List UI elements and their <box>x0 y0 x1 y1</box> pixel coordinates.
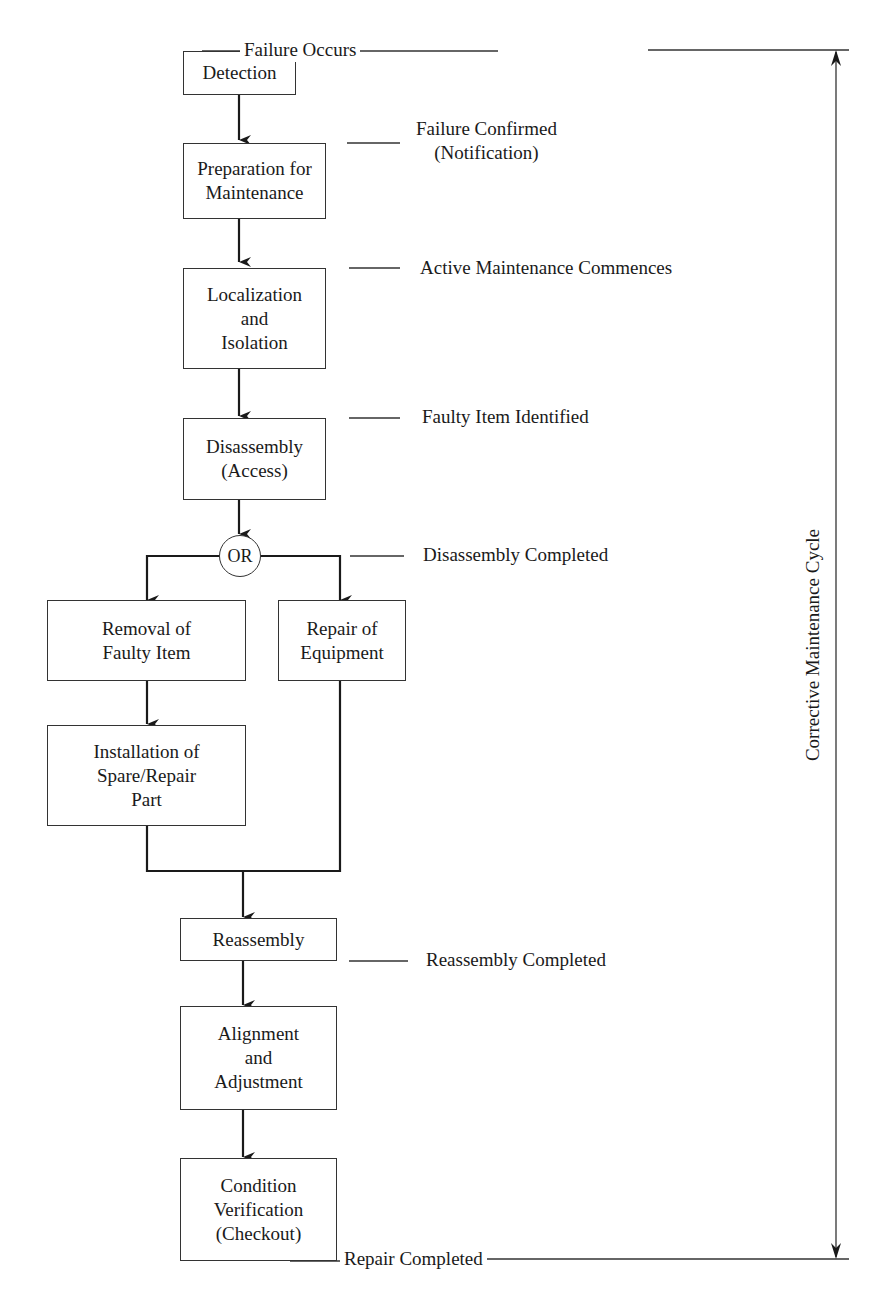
milestone-repair-completed: Repair Completed <box>340 1247 487 1271</box>
step-alignment: Alignment and Adjustment <box>180 1006 337 1110</box>
step-disassembly: Disassembly (Access) <box>183 418 326 500</box>
step-reassembly: Reassembly <box>180 918 337 961</box>
step-preparation: Preparation for Maintenance <box>183 143 326 219</box>
maintenance-cycle-diagram: Detection Preparation for Maintenance Lo… <box>0 0 895 1306</box>
milestone-faulty-item-identified: Faulty Item Identified <box>418 405 593 429</box>
milestone-failure-confirmed: Failure Confirmed (Notification) <box>412 117 561 165</box>
cycle-span-label: Corrective Maintenance Cycle <box>802 525 824 765</box>
step-installation: Installation of Spare/Repair Part <box>47 725 246 826</box>
or-decision-node: OR <box>219 535 261 577</box>
milestone-disassembly-completed: Disassembly Completed <box>419 543 612 567</box>
milestone-failure-occurs: Failure Occurs <box>240 38 360 62</box>
step-localization: Localization and Isolation <box>183 268 326 369</box>
step-verification: Condition Verification (Checkout) <box>180 1158 337 1261</box>
step-removal: Removal of Faulty Item <box>47 600 246 681</box>
milestone-reassembly-completed: Reassembly Completed <box>422 948 610 972</box>
step-repair: Repair of Equipment <box>278 600 406 681</box>
milestone-active-maintenance: Active Maintenance Commences <box>416 256 676 280</box>
